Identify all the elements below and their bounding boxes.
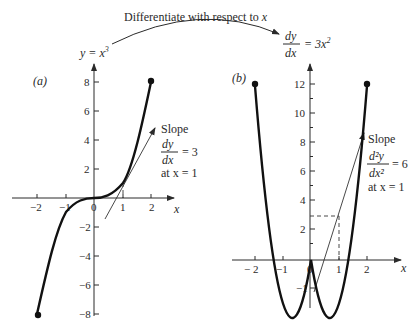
panel-b-slope-annotation: Slope d²y dx² = 6 at x = 1 [367,132,408,194]
svg-text:8: 8 [84,76,90,88]
svg-text:4: 4 [300,194,306,206]
panel-a-endpoint-bottom [35,312,41,318]
svg-text:= 6: = 6 [392,157,408,171]
svg-text:dx²: dx² [369,166,384,180]
svg-text:dx: dx [285,46,297,60]
svg-text:2: 2 [84,163,90,175]
differentiate-label: Differentiate with respect to x [124,10,268,24]
svg-text:Slope: Slope [368,132,395,146]
svg-text:2: 2 [364,263,370,275]
panel-b: (b) dy dx = 3x2 x − 2 −1 0 1 2 [232,29,408,318]
svg-text:6: 6 [300,165,306,177]
panel-b-endpoint-right [364,81,370,87]
svg-text:at x = 1: at x = 1 [161,166,197,180]
panel-a-tangent-line [105,128,155,219]
panel-b-function-label: dy dx = 3x2 [283,29,330,60]
svg-text:−6: −6 [79,279,91,291]
panel-b-x-label: x [400,261,407,275]
svg-text:− 2: − 2 [244,263,258,275]
derivative-diagram: Differentiate with respect to x (a) y = … [0,0,415,326]
panel-a-endpoint-top [148,78,154,84]
svg-text:= 3: = 3 [182,145,198,159]
svg-text:dx: dx [162,153,174,167]
panel-a-label: (a) [33,74,47,88]
svg-text:dy: dy [162,137,174,151]
svg-text:d²y: d²y [369,149,385,163]
panel-a-slope-annotation: Slope dy dx = 3 at x = 1 [161,122,198,180]
svg-text:1: 1 [120,201,126,213]
panel-b-endpoint-left [252,81,258,87]
svg-text:1: 1 [336,263,342,275]
svg-text:−8: −8 [79,308,91,320]
svg-text:= 3x2: = 3x2 [304,36,330,51]
svg-text:4: 4 [84,134,90,146]
panel-b-x-ticks: − 2 −1 0 1 2 [244,256,370,275]
svg-text:8: 8 [300,136,306,148]
panel-b-parabola-curve [255,86,367,318]
svg-text:Slope: Slope [161,122,188,136]
svg-text:−1: −1 [59,201,71,213]
svg-text:0: 0 [91,201,97,213]
panel-a-x-label: x [173,202,180,216]
svg-text:−1: −1 [276,263,288,275]
panel-a-function-label: y = x3 [79,45,109,60]
svg-text:2: 2 [300,223,306,235]
svg-text:−2: −2 [79,221,91,233]
panel-a: (a) y = x3 x −2 −1 0 1 2 8 [12,45,198,320]
svg-text:10: 10 [294,107,306,119]
svg-text:dy: dy [285,29,297,43]
svg-text:at x = 1: at x = 1 [368,180,404,194]
panel-b-label: (b) [232,71,246,85]
svg-text:−4: −4 [79,250,91,262]
svg-text:2: 2 [149,201,155,213]
svg-text:6: 6 [84,105,90,117]
svg-text:−2: −2 [30,201,42,213]
svg-text:12: 12 [294,78,305,90]
